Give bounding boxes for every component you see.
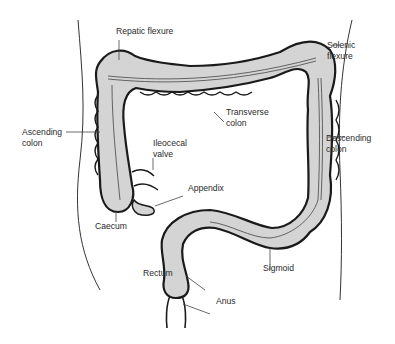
label-ileocecal-valve: Ileocecal valve <box>153 138 187 159</box>
label-transverse-colon: Transverse colon <box>226 107 269 128</box>
anal-canal <box>166 296 185 328</box>
appendix <box>132 200 154 215</box>
label-caecum: Caecum <box>95 221 127 232</box>
label-splenic-flexure: Solenic flexure <box>327 40 355 61</box>
haustra <box>95 92 339 180</box>
label-rectum: Rectum <box>143 268 173 279</box>
colon-shape <box>96 42 335 298</box>
label-anus: Anus <box>216 296 236 307</box>
ileum <box>132 170 158 190</box>
label-appendix: Appendix <box>188 183 224 194</box>
label-sigmoid: Sigmoid <box>263 263 294 274</box>
label-hepatic-flexure: Repatic flexure <box>116 26 173 37</box>
label-descending-colon: Descending colon <box>326 133 371 154</box>
label-ascending-colon: Ascending colon <box>22 127 62 148</box>
